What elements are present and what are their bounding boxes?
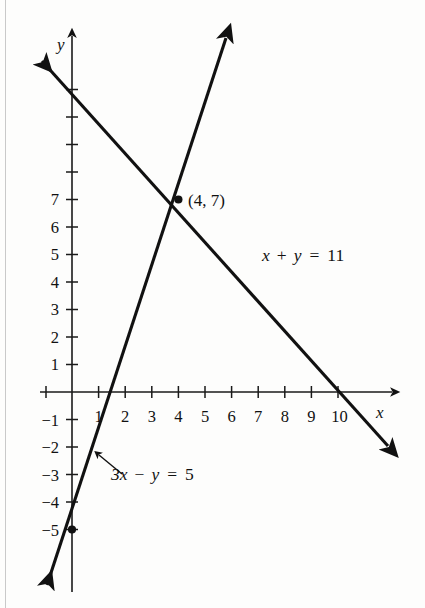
intersection-point-label: (4, 7) — [188, 191, 225, 210]
y-tick-label: −3 — [41, 466, 59, 485]
line2-label-y: y — [149, 464, 159, 484]
y-tick-label: 7 — [51, 190, 59, 209]
line2-label-value: 5 — [185, 464, 194, 484]
x-tick-label: 3 — [148, 407, 156, 426]
line1-equation-label: x+y=11 — [261, 245, 344, 265]
y-tick-labels-negative: −1 −2 −3 −4 −5 — [41, 411, 59, 540]
y-intercept-point-marker — [68, 525, 76, 533]
x-tick-label: 8 — [281, 407, 289, 426]
svg-text:3x−y=5: 3x−y=5 — [110, 464, 194, 484]
x-axis-label: x — [375, 403, 384, 422]
y-axis-label: y — [55, 35, 65, 54]
coordinate-plane-svg: 1 2 3 4 5 6 7 8 9 10 1 2 3 4 5 6 7 −1 −2… — [0, 0, 425, 608]
line2-label-3x: 3x — [110, 464, 128, 484]
line1-label-y: y — [292, 245, 302, 265]
line2-label-minus: − — [135, 464, 145, 484]
svg-text:x+y=11: x+y=11 — [261, 245, 344, 265]
x-tick-label: 7 — [254, 407, 262, 426]
y-tick-label: 1 — [51, 355, 59, 374]
y-tick-label: −1 — [41, 411, 59, 430]
line2-equation-label: 3x−y=5 — [110, 464, 194, 484]
graph-figure: 1 2 3 4 5 6 7 8 9 10 1 2 3 4 5 6 7 −1 −2… — [0, 0, 425, 608]
intersection-point-marker — [174, 195, 182, 203]
x-tick-label: 9 — [307, 407, 315, 426]
line1-label-plus: + — [277, 245, 287, 265]
y-tick-label: −2 — [41, 438, 59, 457]
y-tick-labels-positive: 1 2 3 4 5 6 7 — [51, 190, 59, 374]
line-3x-minus-y-equals-5 — [47, 38, 226, 585]
x-tick-label: 1 — [94, 407, 102, 426]
x-tick-label: 5 — [201, 407, 209, 426]
line1-label-eq: = — [309, 245, 319, 265]
x-tick-labels: 1 2 3 4 5 6 7 8 9 10 — [94, 407, 347, 426]
y-tick-label: 5 — [51, 245, 59, 264]
y-tick-label: 3 — [51, 300, 59, 319]
x-tick-label: 10 — [331, 407, 348, 426]
y-tick-label: 4 — [51, 273, 59, 292]
y-tick-label: 6 — [51, 218, 59, 237]
y-tick-label: −4 — [41, 493, 59, 512]
line1-label-value: 11 — [327, 245, 344, 265]
line1-label-x: x — [261, 245, 270, 265]
y-tick-label: 2 — [51, 328, 59, 347]
x-tick-label: 2 — [121, 407, 129, 426]
x-tick-label: 6 — [227, 407, 235, 426]
y-tick-label: −5 — [41, 521, 59, 540]
line2-label-eq: = — [167, 464, 177, 484]
x-tick-label: 4 — [174, 407, 182, 426]
page-left-border — [5, 0, 6, 608]
